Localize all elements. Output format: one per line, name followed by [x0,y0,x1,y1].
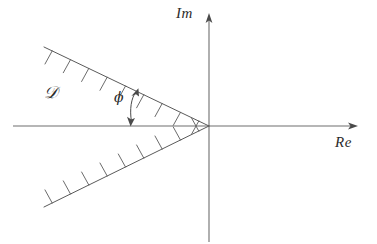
sector-lower-boundary-line [44,126,209,207]
angle-label: ϕ [114,89,124,105]
domain-label: 𝒟 [44,82,58,102]
sector-lower-hatching [45,118,199,203]
sector-lower-boundary [44,118,209,207]
angle-arc-path [131,92,137,122]
sector-upper-boundary-line [44,47,209,126]
real-axis [13,123,358,130]
figure-canvas [0,0,377,244]
sector-upper-boundary [44,47,209,134]
imaginary-axis-label: Im [176,5,193,22]
complex-plane-sector-figure: Im Re 𝒟 ϕ [0,0,377,244]
real-axis-label: Re [335,134,352,151]
